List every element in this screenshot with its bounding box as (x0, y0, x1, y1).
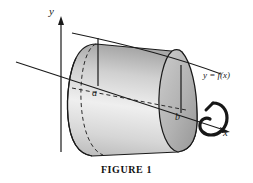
lower-bound-label: a (92, 88, 97, 98)
y-axis (58, 16, 64, 152)
upper-bound-label: b (175, 112, 180, 122)
solid-of-revolution-illustration (0, 0, 253, 183)
figure-container: y x a b y = f(x) FIGURE 1 (0, 0, 253, 183)
y-axis-label: y (49, 6, 54, 17)
y-axis-arrow-icon (58, 16, 64, 25)
x-axis-label: x (223, 127, 228, 138)
function-label: y = f(x) (203, 71, 230, 80)
figure-caption: FIGURE 1 (0, 164, 253, 175)
